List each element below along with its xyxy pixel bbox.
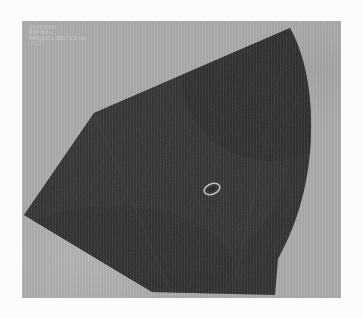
screenshot-root: SCAN 00482 EXP 8.0 s RES 240 x 180 / 1.0…	[0, 0, 363, 318]
scan-region-graphic	[22, 21, 341, 298]
wedge-shading	[22, 21, 341, 298]
grayscale-scan-panel[interactable]: SCAN 00482 EXP 8.0 s RES 240 x 180 / 1.0…	[22, 21, 341, 298]
